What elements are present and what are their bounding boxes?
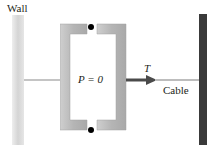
force-label: P = 0 (78, 74, 103, 85)
force-text: P = 0 (78, 73, 103, 85)
cable (155, 79, 199, 81)
left-wall (12, 15, 24, 145)
tension-arrow (126, 73, 158, 87)
bottom-pin (88, 127, 94, 133)
right-wall (199, 14, 207, 145)
top-pin (88, 24, 94, 30)
left-rope (24, 79, 61, 81)
tension-label: T (144, 63, 150, 74)
wall-label: Wall (7, 3, 28, 14)
cable-label: Cable (163, 85, 189, 96)
